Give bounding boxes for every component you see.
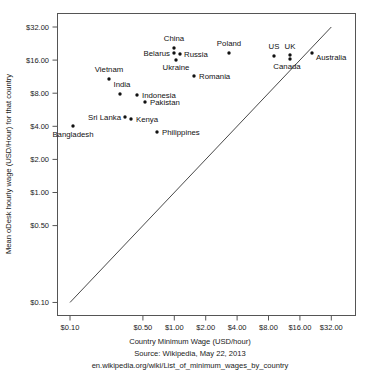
plot-canvas: $32.00$16.00$8.00$4.00$2.00$1.00$0.50$0.… [0,0,369,381]
x-tick-label: $2.00 [196,323,215,332]
y-tick-label: $1.00 [30,188,49,197]
x-tick-label: $0.10 [61,323,80,332]
data-point-label: China [164,34,185,43]
data-point-marker [227,51,230,54]
data-point-marker [174,58,177,61]
x-tick-label: $0.50 [134,323,153,332]
x-axis-tick-marks [70,316,331,321]
data-point-label: Romania [199,72,231,81]
data-point-marker [129,117,132,120]
y-tick-label: $8.00 [30,89,49,98]
y-tick-label: $0.10 [30,298,49,307]
data-point-marker [118,92,121,95]
x-tick-label: $1.00 [165,323,184,332]
data-point-label: UK [285,42,297,51]
y-tick-label: $0.50 [30,221,49,230]
data-point-label: Vietnam [95,65,123,74]
data-point-label: Pakistan [150,98,180,107]
y-axis-tick-marks [53,27,58,302]
data-point-marker [310,51,313,54]
data-point-marker [272,54,275,57]
y-tick-label: $4.00 [30,122,49,131]
data-point-label: India [114,80,132,89]
data-point-marker [192,74,195,77]
x-tick-label: $4.00 [228,323,247,332]
data-point-marker [107,77,110,80]
source-url-line: en.wikipedia.org/wiki/List_of_minimum_wa… [92,361,289,370]
data-point-label: Sri Lanka [88,113,122,122]
data-point-label: Bangladesh [52,130,93,139]
data-point-label: Philippines [162,128,200,137]
data-point-label: Belarus [144,49,171,58]
data-point-label: Ukraine [163,63,190,72]
y-tick-label: $16.00 [26,56,49,65]
x-tick-label: $8.00 [259,323,278,332]
x-tick-label: $32.00 [320,323,343,332]
data-point-marker [135,93,138,96]
x-axis-title: Country Minimum Wage (USD/hour) [129,337,251,346]
data-point-marker [178,52,181,55]
data-point-label: Kenya [136,115,159,124]
data-point-label: US [269,42,280,51]
source-line: Source: Wikipedia, May 22, 2013 [134,349,245,358]
x-axis-tick-labels: $0.10$0.50$1.00$2.00$4.00$8.00$16.00$32.… [61,323,343,332]
data-point-marker [71,124,74,127]
x-tick-label: $16.00 [288,323,311,332]
data-point-marker [172,51,175,54]
data-point-label: Poland [217,39,241,48]
scatter-chart-figure: $32.00$16.00$8.00$4.00$2.00$1.00$0.50$0.… [0,0,369,381]
y-axis-title: Mean oDesk hourly wage (USD/Hour) for th… [4,74,13,254]
data-point-label: Russia [184,50,208,59]
data-point-marker [172,46,175,49]
data-point-label: Canada [273,62,301,71]
y-tick-label: $32.00 [26,23,49,32]
data-point-label: Australia [316,53,347,62]
data-point-marker [123,115,126,118]
data-point-marker [288,57,291,60]
data-point-marker [288,53,291,56]
y-tick-label: $2.00 [30,155,49,164]
data-point-marker [143,100,146,103]
data-point-marker [155,130,158,133]
data-point-labels: ChinaBelarusRussiaUkrainePolandRomaniaUS… [52,34,347,139]
y-axis-tick-labels: $32.00$16.00$8.00$4.00$2.00$1.00$0.50$0.… [26,23,49,307]
